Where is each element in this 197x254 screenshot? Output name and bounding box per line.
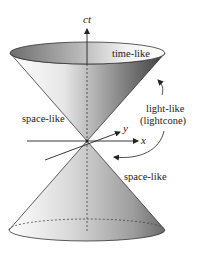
time-like-label: time-like [112, 48, 150, 59]
light-cone-diagram: ct x y time-like space-like light-like (… [0, 0, 197, 254]
past-cone [9, 141, 165, 241]
ct-axis-label: ct [83, 13, 92, 25]
origin-event [86, 140, 89, 143]
y-axis-label: y [122, 122, 128, 134]
space-like-right-label: space-like [124, 171, 167, 182]
space-like-left-label: space-like [22, 113, 65, 124]
x-axis-label: x [140, 134, 146, 146]
lightcone-label: (lightcone) [140, 115, 187, 127]
light-like-label: light-like [146, 103, 185, 114]
